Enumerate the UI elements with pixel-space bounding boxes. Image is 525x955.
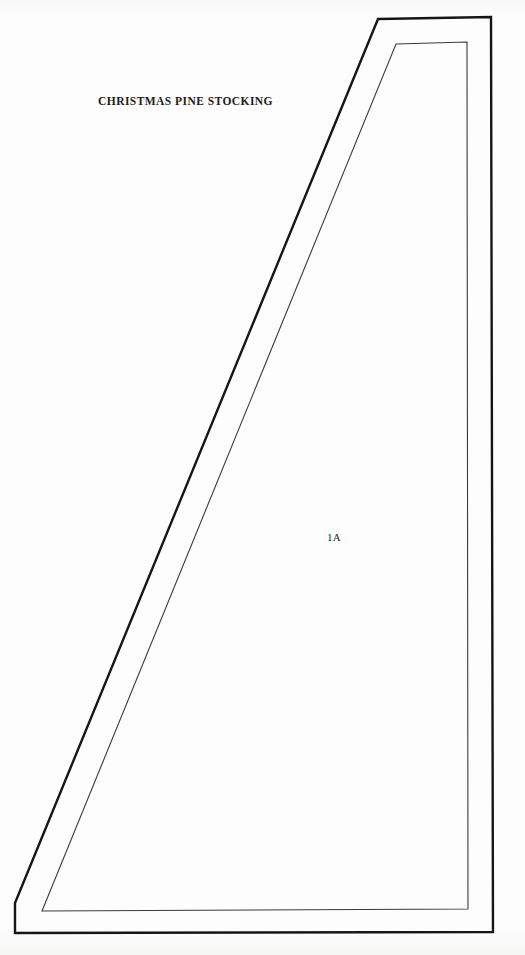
pattern-drawing bbox=[0, 0, 525, 955]
page-title: CHRISTMAS PINE STOCKING bbox=[98, 95, 273, 107]
pattern-piece-label: 1A bbox=[327, 531, 341, 543]
pattern-sheet: CHRISTMAS PINE STOCKING 1A bbox=[0, 0, 525, 955]
outer-cut-line bbox=[15, 17, 493, 933]
inner-seam-line bbox=[42, 42, 468, 911]
